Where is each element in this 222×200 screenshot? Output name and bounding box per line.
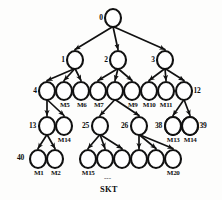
tree-node[interactable]: [107, 82, 123, 100]
tree-node[interactable]: [56, 82, 72, 100]
figure-caption: SKT: [100, 184, 118, 194]
tree-node[interactable]: [124, 82, 140, 100]
tree-edge: [184, 100, 190, 116]
tree-node[interactable]: [182, 117, 198, 135]
tree-edge: [113, 27, 165, 50]
tree-edge: [165, 69, 166, 81]
tree-edge: [88, 135, 100, 149]
node-label-n3: 3: [151, 56, 155, 64]
tree-node[interactable]: [165, 117, 181, 135]
ellipsis-mark: ---: [104, 174, 111, 182]
node-label-m13: M13: [167, 137, 180, 144]
tree-node[interactable]: [90, 82, 106, 100]
tree-node[interactable]: [39, 117, 55, 135]
node-label-n0: 0: [99, 14, 103, 22]
node-label-n12: 12: [194, 87, 201, 95]
node-label-m2: M2: [51, 170, 61, 177]
tree-node[interactable]: [97, 150, 113, 168]
tree-node[interactable]: [92, 117, 108, 135]
tree-edge: [47, 69, 75, 81]
node-label-n38: 38: [155, 122, 162, 130]
tree-node[interactable]: [176, 82, 192, 100]
tree-edge: [149, 69, 165, 81]
node-label-n4: 4: [33, 87, 37, 95]
tree-node[interactable]: [105, 9, 121, 27]
node-label-n39: 39: [200, 122, 207, 130]
node-label-m20: M20: [167, 170, 180, 177]
node-label-n26: 26: [121, 122, 128, 130]
tree-diagram-figure: 01234M5M6M7M9M10M111213M1425263839M140M2…: [0, 0, 222, 200]
tree-node[interactable]: [39, 82, 55, 100]
tree-node[interactable]: [141, 82, 157, 100]
node-label-n13: 13: [29, 122, 36, 130]
node-label-m14b: M14: [184, 137, 197, 144]
node-label-m9: M9: [128, 102, 138, 109]
tree-edge: [75, 27, 113, 50]
tree-node[interactable]: [148, 150, 164, 168]
tree-edge: [118, 69, 132, 81]
node-label-m7: M7: [94, 102, 104, 109]
tree-node[interactable]: [56, 117, 72, 135]
tree-edge: [165, 69, 184, 81]
node-label-m1: M1: [34, 170, 44, 177]
tree-node[interactable]: [157, 51, 173, 69]
node-label-n2: 2: [104, 56, 108, 64]
node-label-m15: M15: [82, 170, 95, 177]
tree-node[interactable]: [80, 150, 96, 168]
tree-edge: [173, 100, 184, 116]
tree-node[interactable]: [114, 150, 130, 168]
node-label-m11: M11: [160, 102, 172, 109]
node-label-n1: 1: [61, 56, 65, 64]
node-label-m5: M5: [60, 102, 70, 109]
node-label-m14: M14: [58, 137, 71, 144]
tree-edge: [47, 135, 55, 149]
tree-node[interactable]: [158, 82, 174, 100]
tree-node[interactable]: [67, 51, 83, 69]
tree-node[interactable]: [131, 150, 147, 168]
tree-edge: [75, 69, 81, 81]
tree-node[interactable]: [110, 51, 126, 69]
tree-node[interactable]: [165, 150, 181, 168]
node-label-m10: M10: [143, 102, 156, 109]
node-label-n25: 25: [82, 122, 89, 130]
tree-edge: [38, 135, 47, 149]
tree-node[interactable]: [131, 117, 147, 135]
tree-edge: [113, 27, 118, 50]
tree-node[interactable]: [73, 82, 89, 100]
tree-node[interactable]: [47, 150, 63, 168]
node-label-m6: M6: [77, 102, 87, 109]
tree-edge: [139, 135, 156, 149]
node-label-m1-corner: 40: [17, 154, 24, 162]
tree-node[interactable]: [30, 150, 46, 168]
